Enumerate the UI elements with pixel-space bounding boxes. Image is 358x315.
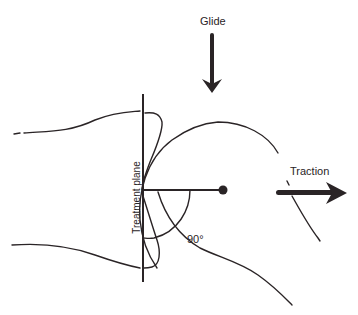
traction-label: Traction <box>290 165 329 177</box>
treatment-plane-label: Treatment plane <box>131 158 142 238</box>
angle-label: 90° <box>187 233 204 245</box>
center-of-rotation-dot <box>219 186 228 195</box>
humeral-head-outline <box>140 122 278 268</box>
glide-arrow <box>202 33 222 93</box>
angle-arc <box>143 190 190 238</box>
lower-bone-outline <box>12 244 140 268</box>
traction-arrow <box>276 182 347 204</box>
glide-label: Glide <box>200 15 226 27</box>
humeral-head-inner-arc <box>158 192 292 305</box>
upper-bone-outline <box>14 111 140 134</box>
joint-mobilization-diagram <box>0 0 358 315</box>
